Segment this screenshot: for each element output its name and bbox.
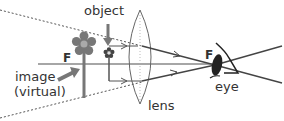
focal-point-left-label: F	[63, 52, 71, 64]
ray-lower-refracted	[142, 65, 215, 81]
eye-icon	[210, 43, 238, 78]
image-pointer-arrow	[58, 72, 74, 80]
object-pointer-arrow-head	[103, 38, 113, 46]
diagram-canvas	[0, 0, 284, 121]
eye-label: eye	[215, 80, 239, 93]
image-virtual-label: (virtual)	[14, 85, 66, 98]
image-label: image	[15, 70, 56, 83]
ray-exit-upper	[215, 46, 282, 65]
object-flower-icon	[104, 47, 115, 58]
focal-point-right-label: F	[205, 49, 213, 61]
lens-label: lens	[148, 99, 175, 112]
ray-diagram: object F F image (virtual) lens eye	[0, 0, 284, 121]
object-label: object	[84, 4, 124, 17]
